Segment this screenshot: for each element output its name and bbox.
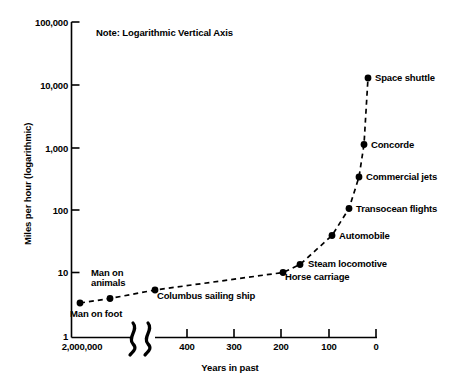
point-label-man-on-foot: Man on foot <box>70 309 122 320</box>
y-axis-ticks <box>72 22 80 273</box>
point-label-commercial-jets: Commercial jets <box>366 172 437 183</box>
y-tick-label-10: 10 <box>14 267 68 278</box>
chart-canvas <box>0 0 461 387</box>
point-label-columbus: Columbus sailing ship <box>157 291 255 302</box>
marker-automobile <box>329 232 336 239</box>
chart-note: Note: Logarithmic Vertical Axis <box>96 27 233 38</box>
marker-concorde <box>361 141 368 148</box>
x-tick-label-100: 100 <box>309 341 349 352</box>
marker-man-on-foot <box>77 300 84 307</box>
x-tick-label-400: 400 <box>167 341 207 352</box>
x-axis-ticks <box>187 329 376 338</box>
y-tick-label-100: 100 <box>14 205 68 216</box>
point-label-man-on-animals-line2: animals <box>91 278 125 289</box>
x-axis-title: Years in past <box>190 362 270 373</box>
y-axis-title: Miles per hour (logarithmic) <box>22 123 33 245</box>
axis-break-squiggle <box>130 323 150 355</box>
y-tick-label-10000: 10,000 <box>14 80 68 91</box>
x-tick-label-2000000: 2,000,000 <box>53 341 111 352</box>
y-tick-label-100000: 100,000 <box>14 17 68 28</box>
marker-space-shuttle <box>365 75 372 82</box>
marker-commercial-jets <box>356 174 363 181</box>
point-label-steam-locomotive: Steam locomotive <box>308 259 387 270</box>
point-label-concorde: Concorde <box>371 140 414 151</box>
point-label-horse-carriage: Horse carriage <box>285 272 349 283</box>
x-tick-label-0: 0 <box>356 341 396 352</box>
point-label-space-shuttle: Space shuttle <box>375 73 435 84</box>
y-tick-label-1000: 1,000 <box>14 143 68 154</box>
point-label-transocean: Transocean flights <box>356 204 437 215</box>
speed-vs-years-chart: Note: Logarithmic Vertical Axis Miles pe… <box>0 0 461 387</box>
marker-transocean <box>346 205 353 212</box>
x-tick-label-200: 200 <box>261 341 301 352</box>
marker-steam-locomotive <box>297 261 304 268</box>
marker-man-on-animals <box>107 295 114 302</box>
x-tick-label-300: 300 <box>214 341 254 352</box>
point-label-automobile: Automobile <box>339 231 390 242</box>
